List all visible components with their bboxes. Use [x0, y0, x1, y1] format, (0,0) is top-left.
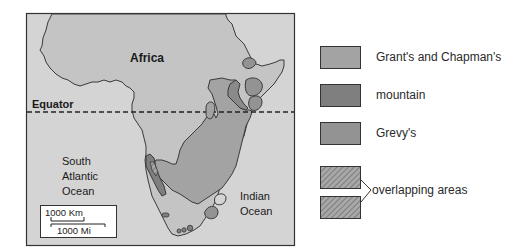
legend-swatch-overlap-1	[321, 167, 361, 189]
scale-km-label: 1000 Km	[45, 207, 83, 218]
range-cape-blob-3	[182, 228, 186, 232]
equator-label: Equator	[32, 98, 74, 110]
legend-overlap-bracket	[361, 180, 371, 202]
range-coast-blob	[249, 96, 262, 111]
indian-label-line1: Indian	[240, 190, 270, 202]
legend-swatch-mountain	[321, 85, 361, 107]
range-cape-blob-1	[162, 213, 169, 217]
legend-swatch-grants-chapman	[321, 47, 361, 69]
legend-swatch-grevys	[321, 123, 361, 145]
indian-label-line2: Ocean	[240, 205, 272, 217]
atlantic-label-line3: Ocean	[62, 185, 94, 197]
africa-label: Africa	[130, 51, 164, 65]
scale-mi-label: 1000 Mi	[57, 225, 91, 236]
scale-bar: 1000 Km 1000 Mi	[41, 206, 117, 238]
legend-swatch-overlap-2	[321, 197, 361, 219]
range-cape-blob-4	[187, 225, 193, 231]
atlantic-label-line2: Atlantic	[62, 170, 99, 182]
zebra-range-map: Africa Equator South Atlantic Ocean Indi…	[0, 0, 523, 250]
atlantic-label-line1: South	[62, 155, 91, 167]
range-east-coast-overlap	[215, 194, 227, 205]
range-cape-blob-2	[177, 229, 181, 233]
